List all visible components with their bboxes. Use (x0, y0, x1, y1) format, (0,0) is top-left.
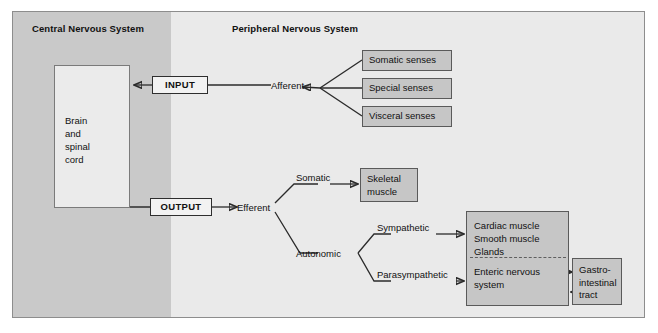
autonomic-effectors-box: Cardiac muscle Smooth muscle Glands Ente… (466, 211, 569, 306)
gastrointestinal-tract-box: Gastro- intestinal tract (572, 258, 622, 305)
skeletal-line-2: muscle (367, 186, 417, 199)
efferent-label: Efferent (237, 202, 270, 213)
somatic-label: Somatic (296, 172, 330, 183)
gi-line-3: tract (579, 289, 621, 302)
enteric-nervous-system-text: Enteric nervous system (474, 265, 540, 291)
skeletal-muscle-box: Skeletal muscle (360, 168, 418, 202)
brain-and-spinal-cord-box: Brain and spinal cord (54, 65, 130, 208)
autonomic-target-line-1: Cardiac muscle (474, 219, 539, 232)
brain-text-line-3: spinal (65, 140, 90, 153)
sensory-box-somatic-senses: Somatic senses (362, 50, 452, 71)
brain-text-line-1: Brain (65, 114, 90, 127)
brain-text-line-2: and (65, 127, 90, 140)
diagram-canvas: Central Nervous System Peripheral Nervou… (0, 0, 658, 333)
autonomic-label: Autonomic (296, 248, 341, 259)
sensory-box-visceral-senses: Visceral senses (362, 106, 452, 127)
gi-line-1: Gastro- (579, 264, 621, 277)
gi-line-2: intestinal (579, 277, 621, 290)
sympathetic-label: Sympathetic (377, 222, 429, 233)
skeletal-line-1: Skeletal (367, 173, 417, 186)
input-box: INPUT (152, 76, 208, 94)
parasympathetic-label: Parasympathetic (377, 269, 448, 280)
dashed-divider (470, 257, 566, 258)
pns-panel-title: Peripheral Nervous System (232, 23, 358, 34)
brain-box-text: Brain and spinal cord (65, 114, 90, 166)
brain-text-line-4: cord (65, 153, 90, 166)
cns-panel-title: Central Nervous System (32, 23, 144, 34)
enteric-line-2: system (474, 278, 540, 291)
enteric-line-1: Enteric nervous (474, 265, 540, 278)
sensory-box-special-senses: Special senses (362, 78, 452, 99)
afferent-label: Afferent (271, 80, 304, 91)
autonomic-effectors-text: Cardiac muscle Smooth muscle Glands (474, 219, 539, 258)
autonomic-target-line-2: Smooth muscle (474, 232, 539, 245)
output-box: OUTPUT (150, 198, 212, 216)
